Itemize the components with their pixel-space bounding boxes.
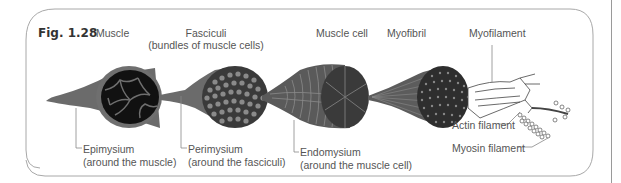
myosin-beads <box>518 113 550 139</box>
heading-muscle-cell: Muscle cell <box>316 27 368 39</box>
callout-endomysium-sub: (around the muscle cell) <box>300 159 412 171</box>
heading-muscle: Muscle <box>96 27 129 39</box>
myofilament <box>468 74 540 118</box>
callout-perimysium-sub: (around the fasciculi) <box>188 156 285 168</box>
page-divider <box>611 0 612 183</box>
heading-myofibril: Myofibril <box>387 27 426 39</box>
callout-perimysium: Perimysium <box>188 143 243 155</box>
callout-endomysium: Endomysium <box>300 146 361 158</box>
heading-fasciculi-sub: (bundles of muscle cells) <box>146 39 266 51</box>
callout-actin-filament: Actin filament <box>452 119 515 131</box>
heading-fasciculi: Fasciculi <box>156 27 256 39</box>
callout-myosin-filament: Myosin filament <box>452 142 525 154</box>
fasciculi-cross-section <box>202 66 268 128</box>
callout-epimysium: Epimysium <box>83 143 134 155</box>
callout-epimysium-sub: (around the muscle) <box>83 156 176 168</box>
figure-number: Fig. 1.28 <box>38 26 97 40</box>
heading-myofilament: Myofilament <box>469 27 526 39</box>
